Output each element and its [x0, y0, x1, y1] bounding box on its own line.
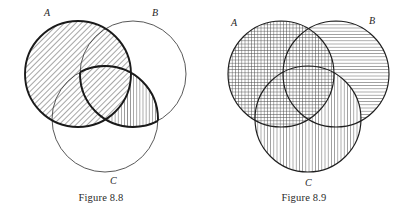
figure-8-9-block: A B C Figure 8.9 — [203, 0, 405, 221]
figure-8-8-caption: Figure 8.8 — [0, 192, 202, 203]
figure-8-9-canvas: A B C — [203, 2, 405, 188]
set-label-B: B — [369, 15, 375, 26]
figure-sheet: A B C Figure 8.8 — [0, 0, 405, 221]
set-label-B: B — [152, 7, 158, 18]
set-label-A: A — [43, 7, 51, 18]
figure-8-8-block: A B C Figure 8.8 — [0, 0, 202, 221]
set-label-A: A — [230, 17, 238, 28]
figure-8-9-caption: Figure 8.9 — [203, 192, 405, 203]
figure-8-8-canvas: A B C — [0, 2, 202, 188]
set-label-C: C — [110, 175, 117, 186]
set-label-C: C — [305, 177, 312, 188]
